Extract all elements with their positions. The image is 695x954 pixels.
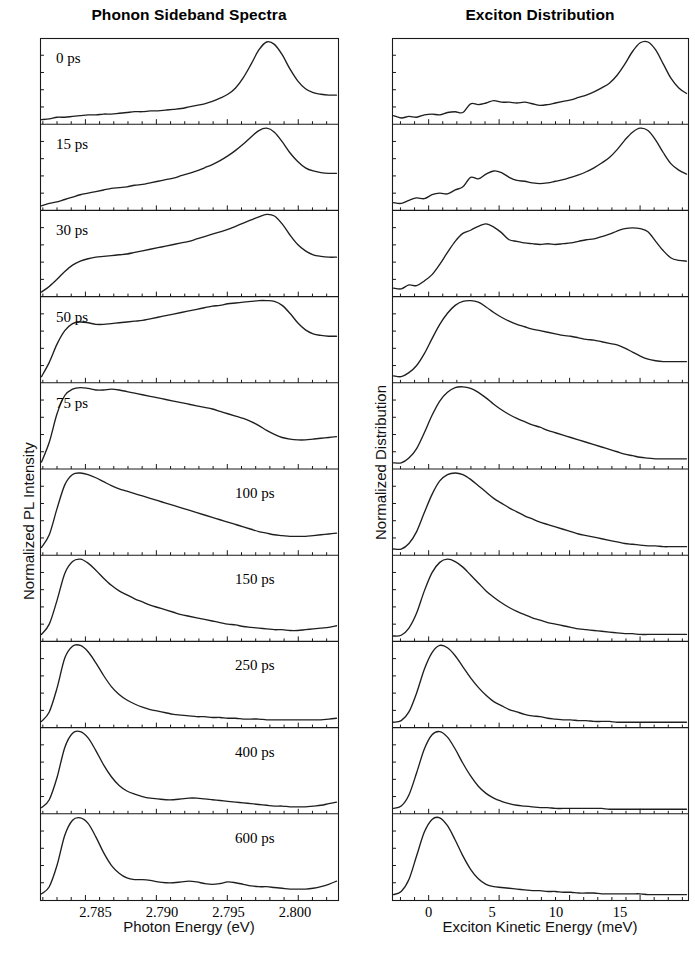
- panel-time-label-150-ps: 150 ps: [235, 571, 275, 588]
- data-trace-right-250-ps: [394, 645, 687, 722]
- data-trace-left-150-ps: [42, 559, 337, 634]
- panel-time-label-50-ps: 50 ps: [56, 309, 88, 326]
- data-trace-right-30-ps: [394, 224, 687, 289]
- data-trace-right-15-ps: [394, 128, 687, 203]
- data-trace-left-600-ps: [42, 818, 337, 894]
- data-trace-right-150-ps: [394, 559, 687, 636]
- data-trace-right-50-ps: [394, 301, 687, 377]
- data-trace-left-100-ps: [42, 473, 337, 547]
- data-trace-left-0-ps: [42, 42, 337, 120]
- data-trace-right-600-ps: [394, 817, 687, 894]
- data-trace-left-250-ps: [42, 645, 337, 722]
- data-trace-right-400-ps: [394, 731, 687, 809]
- panel-time-label-0-ps: 0 ps: [56, 50, 81, 67]
- data-trace-left-400-ps: [42, 731, 337, 808]
- panel-time-label-75-ps: 75 ps: [56, 395, 88, 412]
- panel-time-label-400-ps: 400 ps: [235, 744, 275, 761]
- data-trace-right-75-ps: [394, 387, 687, 463]
- y-axis-title-right: Normalized Distribution: [372, 385, 389, 540]
- panel-time-label-100-ps: 100 ps: [235, 485, 275, 502]
- x-axis-title-photon-energy: Photon Energy (eV): [40, 918, 338, 935]
- plot-canvas: [0, 0, 695, 954]
- panel-time-label-250-ps: 250 ps: [235, 657, 275, 674]
- panel-time-label-600-ps: 600 ps: [235, 830, 275, 847]
- data-trace-right-0-ps: [394, 41, 687, 118]
- y-axis-title-left: Normalized PL Intensity: [20, 442, 37, 600]
- data-trace-right-100-ps: [394, 473, 687, 549]
- panel-time-label-30-ps: 30 ps: [56, 222, 88, 239]
- panel-time-label-15-ps: 15 ps: [56, 136, 88, 153]
- x-axis-title-exciton-kinetic-energy: Exciton Kinetic Energy (meV): [392, 918, 688, 935]
- figure-root: Phonon Sideband Spectra Exciton Distribu…: [0, 0, 695, 954]
